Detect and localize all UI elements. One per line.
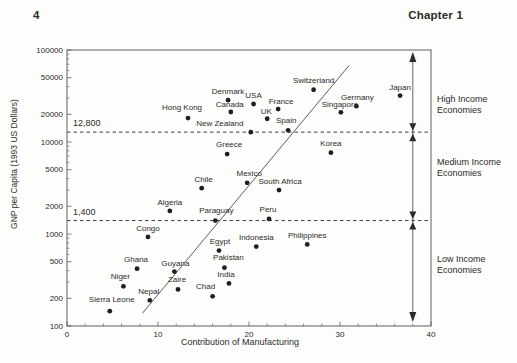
y-axis-tick-label: 10000 [41, 138, 64, 147]
data-point-singapore [339, 110, 344, 115]
country-label-denmark: Denmark [212, 87, 245, 96]
band-label-medium-income-line2: Economies [437, 168, 482, 178]
y-axis-tick-label: 20000 [41, 110, 64, 119]
country-label-indonesia: Indonesia [239, 233, 274, 242]
data-point-greece [225, 152, 230, 157]
data-point-chile [199, 186, 204, 191]
country-label-hong-kong: Hong Kong [162, 103, 202, 112]
country-label-paraguay: Paraguay [199, 206, 233, 215]
band-label-high-income: High Income [437, 94, 488, 104]
country-label-canada: Canada [216, 100, 245, 109]
bracket-divider-upper-icon [409, 212, 416, 220]
data-point-usa [251, 102, 256, 107]
band-label-low-income: Low Income [437, 254, 486, 264]
data-point-guyana [172, 269, 177, 274]
country-label-guyana: Guyana [161, 259, 190, 268]
y-axis-tick-label: 50000 [41, 73, 64, 82]
data-point-spain [286, 128, 291, 133]
country-label-uk: UK [261, 107, 273, 116]
data-point-japan [398, 93, 403, 98]
data-point-india [227, 281, 232, 286]
y-axis-tick-label: 500 [50, 257, 64, 266]
data-point-switzerland [311, 87, 316, 92]
band-label-high-income-line2: Economies [437, 105, 482, 115]
y-axis-tick-label: 5000 [45, 165, 63, 174]
country-label-spain: Spain [276, 116, 296, 125]
y-axis-tick-label: 100 [50, 322, 64, 331]
x-axis-tick-label: 40 [427, 330, 436, 339]
threshold-label-12-800: 12,800 [73, 118, 101, 128]
country-label-pakistan: Pakistan [213, 253, 244, 262]
band-label-low-income-line2: Economies [437, 265, 482, 275]
book-page: 4 Chapter 1 Contribution of Manufacturin… [0, 0, 517, 363]
data-point-ghana [135, 266, 140, 271]
data-point-korea [329, 150, 334, 155]
data-point-niger [121, 284, 126, 289]
data-point-south-africa [277, 188, 282, 193]
data-point-canada [228, 110, 233, 115]
bracket-divider-lower-icon [409, 134, 416, 142]
data-point-hong-kong [186, 116, 191, 121]
country-label-india: India [217, 270, 235, 279]
data-point-new-zealand [248, 130, 253, 135]
country-label-algeria: Algeria [157, 198, 182, 207]
x-axis-tick-label: 10 [154, 330, 163, 339]
x-axis-tick-label: 30 [336, 330, 345, 339]
data-point-congo [146, 234, 151, 239]
country-label-chile: Chile [195, 175, 214, 184]
x-axis-tick-label: 0 [65, 330, 70, 339]
band-label-medium-income: Medium Income [437, 157, 501, 167]
country-label-korea: Korea [320, 139, 342, 148]
y-axis-tick-label: 200 [50, 294, 64, 303]
y-axis-title: GNP per Capita (1993 US Dollars) [9, 99, 19, 229]
data-point-pakistan [222, 265, 227, 270]
country-label-greece: Greece [216, 140, 243, 149]
data-point-indonesia [254, 244, 259, 249]
threshold-label-1-400: 1,400 [73, 207, 96, 217]
data-point-peru [267, 216, 272, 221]
x-axis-title: Contribution of Manufacturing [181, 337, 299, 347]
data-point-france [276, 107, 281, 112]
bracket-arrow-up-icon [409, 52, 416, 62]
data-point-chad [210, 294, 215, 299]
country-label-nepal: Nepal [138, 287, 159, 296]
y-axis-tick-label: 2000 [45, 202, 63, 211]
bracket-arrow-down-icon [409, 312, 416, 322]
country-label-new-zealand: New Zealand [196, 119, 243, 128]
y-axis-tick-label: 1000 [45, 230, 63, 239]
country-label-chad: Chad [196, 282, 215, 291]
country-label-south-africa: South Africa [258, 177, 302, 186]
x-axis-tick-label: 20 [245, 330, 254, 339]
data-point-zaire [176, 287, 181, 292]
country-label-ghana: Ghana [124, 255, 149, 264]
country-label-congo: Congo [136, 224, 160, 233]
country-label-sierra-leone: Sierra Leone [89, 295, 135, 304]
data-point-algeria [167, 209, 172, 214]
country-label-niger: Niger [111, 272, 130, 281]
y-axis-tick-label: 100000 [36, 46, 63, 55]
data-point-paraguay [213, 218, 218, 223]
gnp-vs-manufacturing-scatter-chart: Contribution of Manufacturing GNP per Ca… [0, 0, 517, 363]
country-label-zaire: Zaire [168, 275, 187, 284]
data-point-philippines [305, 242, 310, 247]
country-label-peru: Peru [260, 205, 277, 214]
country-label-france: France [269, 97, 294, 106]
bracket-divider-lower-icon [409, 222, 416, 230]
data-point-nepal [147, 298, 152, 303]
data-point-mexico [245, 180, 250, 185]
country-label-japan: Japan [389, 83, 411, 92]
data-point-uk [265, 116, 270, 121]
country-label-usa: USA [245, 91, 262, 100]
country-label-singapore: Singapore [322, 100, 359, 109]
country-label-philippines: Philippines [288, 231, 327, 240]
bracket-divider-upper-icon [409, 123, 416, 131]
country-label-switzerland: Switzerland [293, 76, 334, 85]
data-point-sierra-leone [107, 309, 112, 314]
country-label-egypt: Egypt [210, 237, 231, 246]
